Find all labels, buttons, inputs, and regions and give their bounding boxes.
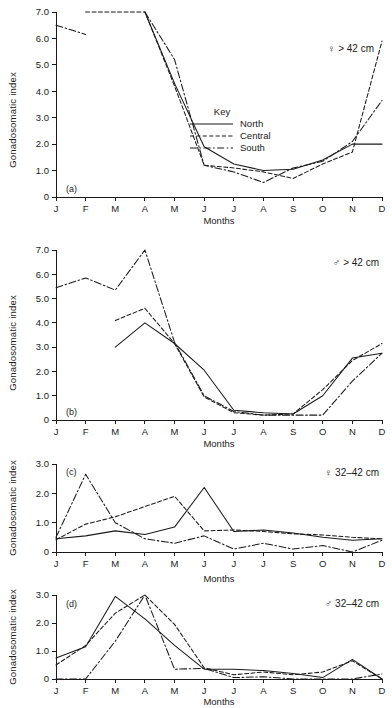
x-tick-label: N: [349, 426, 356, 437]
x-tick-label: F: [83, 685, 89, 696]
y-tick-label: 2.0: [36, 617, 49, 628]
x-tick-label: J: [231, 426, 236, 437]
x-tick-label: J: [231, 685, 236, 696]
chart-a-y-axis-title: Gonadosomatic index: [7, 72, 18, 168]
x-tick-label: A: [142, 558, 149, 569]
x-tick-label: J: [202, 203, 207, 214]
chart-a-svg: Gonadosomatic index 01.02.03.04.05.06.07…: [0, 0, 392, 228]
y-tick-label: 7.0: [36, 244, 49, 255]
chart-c-series: [56, 474, 382, 552]
x-tick-label: D: [379, 426, 386, 437]
x-tick-label: S: [290, 685, 296, 696]
x-tick-label: M: [111, 426, 119, 437]
y-tick-label: 1.0: [36, 390, 49, 401]
cohort-label-c: ♀ 32–42 cm: [325, 467, 379, 478]
chart-panel-c: Gonadosomatic index 01.02.03.0 JFMAMJJJS…: [0, 450, 392, 585]
x-tick-label: J: [202, 685, 207, 696]
y-tick-label: 3.0: [36, 458, 49, 469]
x-tick-label: D: [379, 558, 386, 569]
series-line-central: [115, 308, 382, 415]
cohort-label-d: ♂ 32–42 cm: [325, 598, 379, 609]
x-tick-label: J: [54, 203, 59, 214]
x-tick-label: S: [290, 426, 296, 437]
y-axis-title-b: Gonadosomatic index: [7, 295, 18, 391]
x-tick-label: J: [54, 685, 59, 696]
x-tick-label: O: [319, 426, 326, 437]
y-tick-label: 0: [44, 673, 49, 684]
chart-a-series: [56, 12, 382, 182]
x-tick-label: A: [142, 685, 149, 696]
x-tick-label: N: [349, 203, 356, 214]
y-tick-label: 0: [44, 191, 49, 202]
series-line-north: [56, 487, 382, 540]
x-tick-label: J: [202, 558, 207, 569]
chart-a-legend: Key North Central South: [190, 106, 271, 153]
legend-title: Key: [214, 106, 231, 117]
x-tick-label: F: [83, 426, 89, 437]
y-tick-label: 0: [44, 414, 49, 425]
legend-label-central: Central: [240, 130, 271, 141]
chart-panel-b: Gonadosomatic index 01.02.03.04.05.06.07…: [0, 228, 392, 450]
cohort-label-b: ♂ > 42 cm: [333, 257, 379, 268]
y-tick-label: 1.0: [36, 165, 49, 176]
x-tick-label: M: [171, 558, 179, 569]
x-tick-label: M: [171, 426, 179, 437]
legend-label-north: North: [240, 118, 263, 129]
y-tick-label: 4.0: [36, 317, 49, 328]
x-tick-label: S: [290, 203, 296, 214]
y-axis-title-a: Gonadosomatic index: [7, 72, 18, 168]
chart-c-svg: Gonadosomatic index 01.02.03.0 JFMAMJJJS…: [0, 450, 392, 585]
chart-a-y-ticks: 01.02.03.04.05.06.07.0: [36, 6, 56, 202]
x-axis-title-a: Months: [203, 215, 234, 226]
y-tick-label: 2.0: [36, 488, 49, 499]
y-tick-label: 6.0: [36, 33, 49, 44]
x-tick-label: N: [349, 558, 356, 569]
chart-b-x-ticks: JFMAMJJASOND: [54, 420, 386, 437]
panel-tag-d: (d): [66, 599, 77, 609]
series-line-north: [115, 323, 382, 414]
y-tick-label: 0: [44, 546, 49, 557]
x-tick-label: D: [379, 203, 386, 214]
y-tick-label: 5.0: [36, 59, 49, 70]
x-tick-label: M: [111, 558, 119, 569]
x-tick-label: A: [142, 203, 149, 214]
legend-label-south: South: [240, 142, 265, 153]
chart-d-svg: Gonadosomatic index 01.02.03.0 JFMAMJJAS…: [0, 585, 392, 708]
y-tick-label: 2.0: [36, 138, 49, 149]
x-tick-label: J: [261, 558, 266, 569]
x-tick-label: J: [231, 558, 236, 569]
y-axis-title-d: Gonadosomatic index: [7, 589, 18, 685]
x-tick-label: J: [231, 203, 236, 214]
panel-tag-a: (a): [66, 184, 77, 194]
series-line-central: [86, 12, 382, 179]
x-tick-label: O: [319, 203, 326, 214]
y-tick-label: 3.0: [36, 341, 49, 352]
x-tick-label: J: [54, 558, 59, 569]
x-tick-label: S: [290, 558, 296, 569]
x-tick-label: A: [260, 203, 267, 214]
y-tick-label: 3.0: [36, 589, 49, 600]
y-tick-label: 7.0: [36, 6, 49, 17]
x-axis-title-b: Months: [203, 438, 234, 449]
x-tick-label: A: [142, 426, 149, 437]
series-line-south: [56, 12, 382, 182]
chart-d-x-ticks: JFMAMJJASOND: [54, 679, 386, 696]
x-tick-label: F: [83, 558, 89, 569]
chart-c-x-ticks: JFMAMJJJSOND: [54, 552, 386, 569]
cohort-label-a: ♀ > 42 cm: [328, 43, 374, 54]
gonadosomatic-index-figure: Gonadosomatic index 01.02.03.04.05.06.07…: [0, 0, 392, 708]
x-tick-label: M: [111, 685, 119, 696]
x-tick-label: O: [319, 558, 326, 569]
chart-panel-d: Gonadosomatic index 01.02.03.0 JFMAMJJAS…: [0, 585, 392, 708]
x-tick-label: D: [379, 685, 386, 696]
y-axis-title-c: Gonadosomatic index: [7, 460, 18, 556]
chart-a-x-ticks: JFMAMJJASOND: [54, 197, 386, 214]
y-tick-label: 6.0: [36, 269, 49, 280]
chart-panel-a: Gonadosomatic index 01.02.03.04.05.06.07…: [0, 0, 392, 228]
panel-tag-c: (c): [66, 467, 77, 477]
y-tick-label: 1.0: [36, 645, 49, 656]
y-tick-label: 3.0: [36, 112, 49, 123]
x-tick-label: F: [83, 203, 89, 214]
x-tick-label: M: [171, 203, 179, 214]
x-tick-label: A: [260, 685, 267, 696]
